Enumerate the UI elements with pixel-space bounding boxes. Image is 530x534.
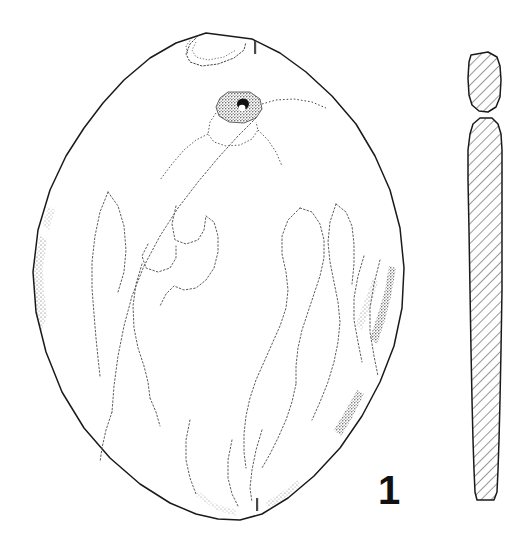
figure-number: 1 bbox=[378, 470, 400, 510]
illustration-plate: L. 120mm, W. 95mm, Th. 25mm (Flint) bbox=[0, 0, 530, 534]
section-tick-bottom bbox=[256, 498, 258, 511]
section-tick-top bbox=[254, 41, 256, 54]
drawing-canvas bbox=[0, 0, 530, 534]
plate-background bbox=[0, 0, 530, 534]
